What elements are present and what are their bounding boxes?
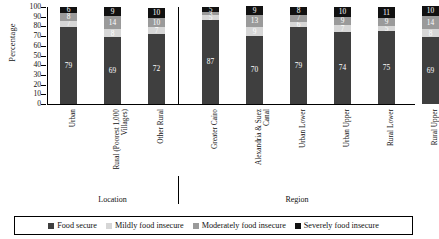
bar-segment: 70 xyxy=(246,36,263,104)
bar-value-label: 8 xyxy=(111,30,115,37)
bar-value-label: 5 xyxy=(209,7,213,12)
bar-segment: 79 xyxy=(290,27,307,104)
group-label: Location xyxy=(47,195,178,204)
bar-value-label: 5 xyxy=(209,15,213,20)
bar-value-label: 74 xyxy=(339,64,346,71)
bar-segment: 6 xyxy=(290,22,307,28)
bar-value-label: 14 xyxy=(109,19,116,26)
bar-column: 6981410 xyxy=(422,7,439,104)
legend-item: Severely food insecure xyxy=(295,221,379,230)
y-tick-label: 100 xyxy=(17,3,41,11)
bar-segment: 10 xyxy=(334,7,351,17)
y-tick-mark xyxy=(41,85,46,86)
x-category-label: Alexandria & Suez Canal xyxy=(255,109,271,183)
x-category-label: Rural Lower xyxy=(387,109,395,183)
y-tick-mark xyxy=(41,36,46,37)
bar-segment: 3 xyxy=(202,12,219,15)
x-axis-line xyxy=(47,104,415,105)
bar-value-label: 7 xyxy=(297,15,301,22)
y-tick-label: 90 xyxy=(17,13,41,21)
bar-segment: 5 xyxy=(202,15,219,20)
bar-column: 7271010 xyxy=(148,7,165,104)
bar-value-label: 87 xyxy=(207,58,214,65)
chart-legend: Food secureMildly food insecureModeratel… xyxy=(14,216,413,235)
bar-column: 79786 xyxy=(60,7,77,104)
bar-value-label: 10 xyxy=(427,7,434,14)
bar-segment: 69 xyxy=(104,37,121,104)
bar-column: 698149 xyxy=(104,7,121,104)
bar-segment: 7 xyxy=(334,25,351,32)
x-category-label: Other Rural xyxy=(157,109,165,183)
y-tick-label: 70 xyxy=(17,32,41,40)
legend-label: Mildly food insecure xyxy=(115,221,184,230)
bar-segment: 69 xyxy=(422,37,439,104)
bar-value-label: 13 xyxy=(251,17,258,24)
bar-value-label: 3 xyxy=(209,12,213,15)
bar-segment: 72 xyxy=(148,34,165,104)
bar-value-label: 10 xyxy=(339,8,346,15)
bar-segment: 75 xyxy=(378,31,395,104)
plot-area: 7978669814972710108753570913979678747910… xyxy=(47,7,415,104)
group-label: Region xyxy=(179,195,415,204)
bar-segment: 8 xyxy=(60,13,77,21)
bar-segment: 7 xyxy=(60,21,77,28)
bar-segment: 6 xyxy=(60,7,77,13)
bar-value-label: 7 xyxy=(67,21,71,28)
y-tick-mark xyxy=(41,26,46,27)
bar-segment: 8 xyxy=(422,29,439,37)
bar-segment: 13 xyxy=(246,15,263,28)
legend-label: Moderately food insecure xyxy=(202,221,286,230)
legend-swatch xyxy=(295,223,301,229)
bar-segment: 8 xyxy=(104,29,121,37)
y-tick-label: 40 xyxy=(17,61,41,69)
legend-item: Moderately food insecure xyxy=(193,221,286,230)
y-tick-mark xyxy=(41,46,46,47)
bar-segment: 7 xyxy=(290,15,307,22)
y-tick-mark xyxy=(41,17,46,18)
bar-value-label: 8 xyxy=(429,30,433,37)
y-tick-mark xyxy=(41,7,46,8)
bar-segment: 10 xyxy=(148,18,165,28)
bar-value-label: 7 xyxy=(341,25,345,32)
bar-value-label: 10 xyxy=(153,19,160,26)
y-tick-label: 30 xyxy=(17,71,41,79)
bar-segment: 14 xyxy=(104,16,121,30)
bar-segment: 7 xyxy=(148,27,165,34)
bar-segment: 9 xyxy=(246,6,263,15)
bar-segment: 9 xyxy=(334,17,351,26)
bar-value-label: 8 xyxy=(297,7,301,14)
y-tick-mark xyxy=(41,104,46,105)
bar-value-label: 11 xyxy=(383,9,390,16)
bar-value-label: 8 xyxy=(67,13,71,20)
bar-value-label: 9 xyxy=(341,17,345,24)
bar-value-label: 6 xyxy=(297,22,301,28)
bar-value-label: 79 xyxy=(295,62,302,69)
bar-column: 79678 xyxy=(290,7,307,104)
bar-column: 755911 xyxy=(378,7,395,104)
bar-segment: 74 xyxy=(334,32,351,104)
bar-segment: 11 xyxy=(378,7,395,18)
bar-segment: 9 xyxy=(246,27,263,36)
bar-value-label: 69 xyxy=(427,67,434,74)
bar-value-label: 5 xyxy=(385,26,389,31)
y-tick-label: 80 xyxy=(17,22,41,30)
x-category-label: Greater Cairo xyxy=(211,109,219,183)
bar-segment: 5 xyxy=(378,26,395,31)
bar-value-label: 75 xyxy=(383,64,390,71)
legend-swatch xyxy=(106,223,112,229)
bar-segment: 8 xyxy=(290,7,307,15)
legend-label: Severely food insecure xyxy=(304,221,379,230)
bar-value-label: 72 xyxy=(153,65,160,72)
bar-value-label: 69 xyxy=(109,67,116,74)
bar-value-label: 70 xyxy=(251,66,258,73)
bar-segment: 9 xyxy=(378,18,395,27)
bar-value-label: 9 xyxy=(253,7,257,14)
legend-swatch xyxy=(48,223,54,229)
y-tick-mark xyxy=(41,56,46,57)
bar-value-label: 9 xyxy=(385,18,389,25)
bar-segment: 5 xyxy=(202,7,219,12)
x-category-label: Urban Upper xyxy=(343,109,351,183)
legend-label: Food secure xyxy=(57,221,97,230)
y-tick-label: 10 xyxy=(17,90,41,98)
